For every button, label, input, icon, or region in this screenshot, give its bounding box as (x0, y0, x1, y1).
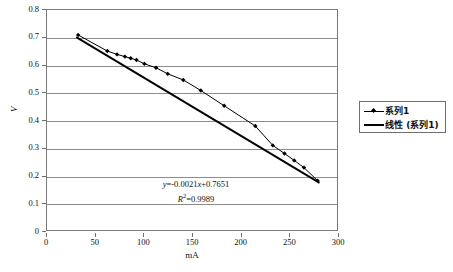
x-axis-tick-label: 50 (80, 238, 110, 247)
x-axis-tick-label: 0 (31, 238, 61, 247)
legend-marker-line-icon (363, 106, 385, 116)
data-point (134, 58, 138, 62)
data-point (165, 72, 169, 76)
equation-line: y=-0.0021x+0.7651 (101, 179, 291, 190)
trendline (76, 37, 319, 183)
r-squared-line: R2=0.9989 (101, 190, 291, 205)
y-axis-tick-label: 0.3 (28, 143, 39, 152)
y-axis-tick-label: 0.5 (28, 88, 39, 97)
equation-tail: +0.7651 (201, 179, 229, 189)
chart-container: 0.80.70.60.50.40.30.20.10 V 050100150200… (0, 0, 453, 272)
x-axis-tick-label: 300 (323, 238, 353, 247)
equation-rest: =-0.0021 (166, 179, 197, 189)
x-axis-tick-mark (289, 233, 290, 237)
legend-item-series1[interactable]: 系列1 (363, 104, 442, 118)
y-axis-tick-label: 0.6 (28, 60, 39, 69)
data-point (115, 52, 119, 56)
x-axis-tick-mark (46, 233, 47, 237)
data-point (181, 78, 185, 82)
legend: 系列1 线性 (系列1) (359, 101, 446, 133)
x-axis-tick-mark (95, 233, 96, 237)
legend-label-series1: 系列1 (385, 106, 409, 116)
x-axis-tick-mark (192, 233, 193, 237)
x-axis-title: mA (0, 250, 384, 260)
x-axis-tick-label: 150 (177, 238, 207, 247)
y-axis-tick-label: 0.2 (28, 171, 39, 180)
x-axis-tick-label: 250 (274, 238, 304, 247)
data-point (105, 49, 109, 53)
x-axis-tick-mark (143, 233, 144, 237)
r-squared-value: =0.9989 (186, 194, 214, 204)
x-axis-tick-mark (338, 233, 339, 237)
series-line (78, 35, 317, 181)
data-point (142, 62, 146, 66)
y-axis-tick-label: 0.4 (28, 116, 39, 125)
y-axis-tick-mark (42, 231, 46, 232)
y-axis-title: V (9, 107, 19, 113)
legend-item-trendline[interactable]: 线性 (系列1) (363, 118, 442, 132)
data-point (123, 54, 127, 58)
y-axis-tick-label: 0.1 (28, 199, 39, 208)
data-point (154, 66, 158, 70)
legend-label-trendline: 线性 (系列1) (385, 120, 439, 130)
legend-line-icon (363, 120, 385, 130)
data-point (129, 56, 133, 60)
x-axis-tick-label: 200 (226, 238, 256, 247)
x-axis-tick-label: 100 (128, 238, 158, 247)
y-axis-tick-label: 0.8 (28, 5, 39, 14)
x-axis-tick-mark (241, 233, 242, 237)
y-axis-tick-label: 0.7 (28, 32, 39, 41)
y-axis-tick-labels: 0.80.70.60.50.40.30.20.10 (0, 0, 44, 272)
trendline-equation-annotation: y=-0.0021x+0.7651 R2=0.9989 (101, 179, 291, 205)
